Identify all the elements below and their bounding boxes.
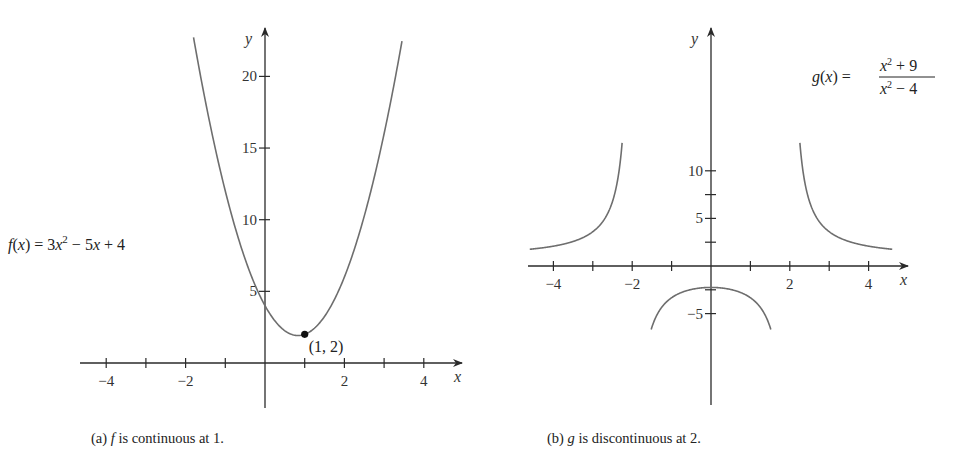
y-axis-label: y bbox=[689, 30, 699, 48]
chart-panel-b: −4−224 −5510 x y g(x) = x2 + 9 x2 − 4 (b… bbox=[528, 28, 935, 447]
function-curve-g-branch-3 bbox=[800, 143, 892, 249]
x-tick-label: −4 bbox=[98, 373, 114, 389]
y-tick-label: 15 bbox=[242, 140, 257, 156]
figure: −4−224 5101520 (1, 2) x y f(x) = 3x2 − 5… bbox=[0, 0, 969, 457]
y-tick-label: 10 bbox=[242, 212, 257, 228]
x-tick-label: −2 bbox=[624, 276, 640, 292]
x-tick-label: −2 bbox=[178, 373, 194, 389]
x-tick-label: 2 bbox=[341, 373, 349, 389]
y-tick-label: 10 bbox=[688, 163, 703, 179]
y-tick-label: −5 bbox=[687, 306, 703, 322]
equation-label-f: f(x) = 3x2 − 5x + 4 bbox=[8, 233, 125, 254]
y-tick-label: 5 bbox=[696, 210, 704, 226]
x-tick-label: 2 bbox=[786, 276, 794, 292]
y-axis-label: y bbox=[243, 30, 253, 48]
x-tick-label: 4 bbox=[420, 373, 428, 389]
x-tick-label: −4 bbox=[545, 276, 561, 292]
x-axis-label: x bbox=[453, 368, 461, 385]
svg-text:x2 + 9: x2 + 9 bbox=[879, 56, 917, 74]
chart-panel-a: −4−224 5101520 (1, 2) x y f(x) = 3x2 − 5… bbox=[8, 28, 462, 447]
svg-text:x2 − 4: x2 − 4 bbox=[879, 79, 917, 97]
point-label: (1, 2) bbox=[309, 338, 344, 356]
x-axis-label: x bbox=[899, 271, 907, 288]
caption-a: (a) f is continuous at 1. bbox=[91, 430, 224, 447]
y-tick-label: 20 bbox=[242, 68, 257, 84]
caption-b: (b) g is discontinuous at 2. bbox=[547, 430, 701, 447]
highlight-point bbox=[301, 331, 308, 338]
equation-label-g: g(x) = x2 + 9 x2 − 4 bbox=[812, 56, 935, 97]
x-tick-label: 4 bbox=[865, 276, 873, 292]
function-curve-g-branch-1 bbox=[530, 143, 622, 249]
svg-text:g(x) =: g(x) = bbox=[812, 68, 851, 86]
function-curve-f bbox=[194, 37, 402, 335]
